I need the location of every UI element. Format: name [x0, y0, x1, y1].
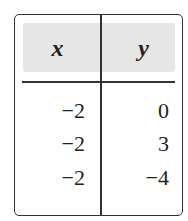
- header-x: x: [15, 35, 100, 62]
- header-y: y: [101, 35, 186, 62]
- cell-y: 0: [101, 98, 169, 124]
- cell-y: 3: [101, 131, 169, 157]
- cell-y: −4: [101, 165, 169, 191]
- cell-x: −2: [15, 165, 85, 191]
- xy-table: x y −2 0 −2 3 −2 −4: [14, 14, 183, 216]
- header-rule: [22, 81, 175, 83]
- cell-x: −2: [15, 98, 85, 124]
- cell-x: −2: [15, 131, 85, 157]
